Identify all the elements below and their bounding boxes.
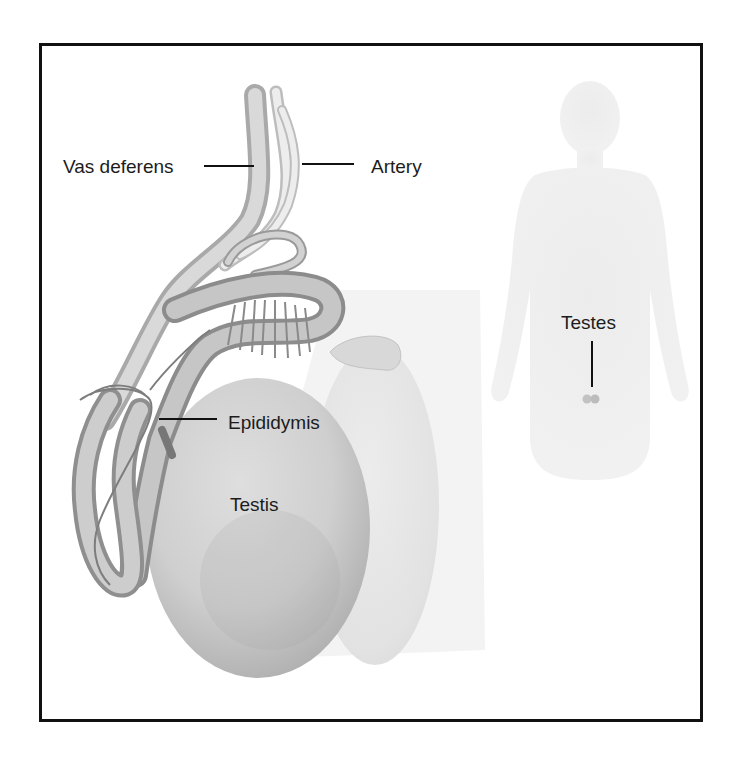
body-silhouette [491, 81, 689, 480]
leader-vas-deferens [204, 165, 254, 167]
label-testes: Testes [561, 313, 616, 332]
leader-artery [302, 163, 354, 165]
label-vas-deferens: Vas deferens [63, 157, 174, 176]
label-epididymis: Epididymis [228, 413, 320, 432]
label-artery: Artery [371, 157, 422, 176]
leader-testes [591, 341, 593, 387]
label-testis: Testis [230, 495, 279, 514]
leader-epididymis [159, 418, 217, 420]
anatomy-illustration [0, 0, 739, 761]
